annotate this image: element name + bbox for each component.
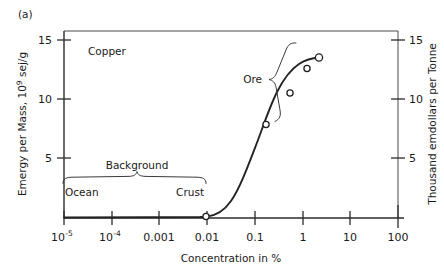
data-point-ore-4 — [315, 54, 322, 61]
x-tick-label-1e-5-base: 10 — [51, 231, 65, 244]
x-tick-label-100: 100 — [388, 231, 409, 244]
panel-label: (a) — [18, 8, 33, 20]
x-tick-label-0.01: 0.01 — [195, 231, 220, 244]
ocean-label: Ocean — [65, 186, 99, 198]
data-point-ore-1 — [263, 121, 269, 127]
crust-label: Crust — [176, 186, 204, 198]
y2-tick-label-5: 5 — [409, 152, 416, 165]
svg-text:Emergy per Mass, 109 sej/g: Emergy per Mass, 109 sej/g — [15, 52, 28, 196]
data-point-crust — [203, 213, 209, 219]
background-label: Background — [106, 159, 169, 171]
x-tick-labels: 10 -5 10 -4 0.001 0.01 0.1 1 10 100 — [51, 229, 409, 244]
data-point-ore-2 — [287, 90, 293, 96]
ore-label: Ore — [243, 73, 262, 85]
data-point-markers — [203, 54, 323, 220]
y-tick-label-15: 15 — [38, 34, 52, 47]
y-tick-label-10: 10 — [38, 93, 52, 106]
background-brace — [63, 172, 206, 184]
svg-text:Thousand emdollars per Tonne: Thousand emdollars per Tonne — [426, 43, 438, 205]
y-axis-left-title-tail: sej/g — [16, 52, 28, 80]
y2-tick-label-10: 10 — [409, 93, 423, 106]
emergy-concentration-chart: 5 10 15 5 10 15 10 -5 10 -4 — [0, 0, 444, 274]
x-tick-label-0.001: 0.001 — [143, 231, 175, 244]
x-axis-title: Concentration in % — [181, 252, 282, 264]
y-axis-left-title-main: Emergy per Mass, 10 — [16, 85, 28, 196]
figure-panel-a: 5 10 15 5 10 15 10 -5 10 -4 — [0, 0, 444, 274]
data-point-ore-3 — [304, 65, 310, 71]
x-tick-label-1e-4-exp: -4 — [113, 229, 121, 238]
y2-tick-label-15: 15 — [409, 34, 423, 47]
x-tick-label-0.1: 0.1 — [246, 231, 264, 244]
x-tick-label-10: 10 — [343, 231, 357, 244]
y-axis-right-title: Thousand emdollars per Tonne — [426, 43, 438, 205]
y-axis-left-title: Emergy per Mass, 109 sej/g — [15, 52, 28, 196]
plot-title: Copper — [88, 45, 127, 57]
x-tick-label-1e-5-exp: -5 — [65, 229, 73, 238]
y-tick-label-5: 5 — [45, 152, 52, 165]
x-tick-label-1: 1 — [300, 231, 307, 244]
x-tick-label-1e-4-base: 10 — [99, 231, 113, 244]
